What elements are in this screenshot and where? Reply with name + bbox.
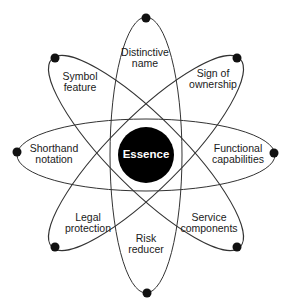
node-dot-bottom-left — [51, 243, 60, 252]
label-service-components: Service components — [180, 212, 237, 234]
label-shorthand-notation: Shorthand notation — [30, 143, 78, 165]
node-dot-top — [142, 14, 151, 23]
essence-label: Essence — [123, 148, 170, 160]
node-dot-right — [270, 149, 279, 158]
label-sign-of-ownership: Sign of ownership — [189, 68, 237, 90]
label-symbol-feature: Symbol feature — [62, 71, 97, 93]
node-dot-top-right — [233, 54, 242, 63]
node-dot-bottom — [143, 289, 152, 298]
node-dot-left — [13, 148, 22, 157]
brand-essence-atom-diagram: Essence Distinctive name Sign of ownersh… — [0, 0, 286, 301]
label-legal-protection: Legal protection — [65, 212, 111, 234]
label-functional-capabilities: Functional capabilities — [212, 143, 264, 165]
node-dot-bottom-right — [233, 243, 242, 252]
label-distinctive-name: Distinctive name — [121, 47, 169, 69]
node-dot-top-left — [51, 54, 60, 63]
label-risk-reducer: Risk reducer — [128, 233, 164, 255]
